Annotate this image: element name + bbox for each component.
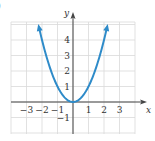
svg-text:1: 1 [86,105,92,115]
svg-text:2: 2 [64,66,70,76]
svg-text:3: 3 [64,51,70,61]
svg-text:−2: −2 [35,105,48,115]
svg-text:−3: −3 [20,105,34,115]
svg-text:−1: −1 [57,113,70,123]
tick-labels: −3−2−11231234−1 [20,35,123,123]
svg-text:4: 4 [64,35,70,45]
svg-text:2: 2 [101,105,107,115]
svg-text:1: 1 [64,82,70,92]
y-axis-label: y [63,8,70,18]
svg-text:3: 3 [117,105,123,115]
axes [11,12,147,134]
x-axis-label: x [146,105,151,115]
parabola-chart: −3−2−11231234−1 x y [0,0,155,141]
